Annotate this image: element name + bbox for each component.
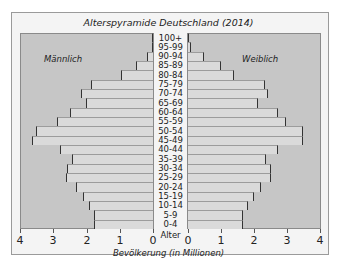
bar-female bbox=[188, 220, 243, 229]
x-tick-label: 2 bbox=[79, 234, 95, 247]
bar-female bbox=[188, 173, 271, 182]
x-tick bbox=[20, 229, 21, 233]
bar-male bbox=[81, 89, 153, 98]
x-tick-label: 3 bbox=[279, 234, 295, 247]
x-tick-label: 3 bbox=[45, 234, 61, 247]
bar-male bbox=[66, 173, 153, 182]
bar-female bbox=[188, 145, 278, 154]
bar-male bbox=[91, 80, 153, 89]
bar-female bbox=[188, 164, 271, 173]
x-tick bbox=[287, 229, 288, 233]
bar-female bbox=[188, 80, 265, 89]
bar-female bbox=[188, 52, 204, 61]
legend-male: Männlich bbox=[44, 54, 82, 64]
x-tick bbox=[320, 229, 321, 233]
bar-male bbox=[32, 136, 153, 145]
x-axis-label: Bevölkerung (in Millionen) bbox=[0, 248, 337, 258]
x-tick-label: 1 bbox=[213, 234, 229, 247]
bar-female bbox=[188, 154, 266, 163]
bar-male bbox=[136, 61, 153, 70]
chart-title: Alterspyramide Deutschland (2014) bbox=[0, 17, 337, 28]
x-tick bbox=[120, 229, 121, 233]
legend-female: Weiblich bbox=[242, 54, 278, 64]
bar-male bbox=[67, 164, 153, 173]
bar-female bbox=[188, 201, 248, 210]
bar-female bbox=[188, 210, 243, 219]
x-tick bbox=[221, 229, 222, 233]
bar-male bbox=[76, 182, 153, 191]
bar-female bbox=[188, 192, 254, 201]
bar-male bbox=[121, 70, 153, 79]
x-tick bbox=[254, 229, 255, 233]
bar-male bbox=[94, 210, 153, 219]
bar-female bbox=[188, 42, 191, 51]
bar-female bbox=[188, 126, 303, 135]
x-tick-label: 4 bbox=[12, 234, 28, 247]
bar-female bbox=[188, 33, 189, 42]
bar-male bbox=[70, 108, 153, 117]
bar-female bbox=[188, 136, 303, 145]
bar-female bbox=[188, 70, 234, 79]
bar-male bbox=[86, 98, 153, 107]
x-tick bbox=[87, 229, 88, 233]
bar-male bbox=[83, 192, 153, 201]
age-axis-label: Alter bbox=[153, 230, 188, 240]
bar-female bbox=[188, 98, 258, 107]
x-tick-label: 2 bbox=[246, 234, 262, 247]
bar-female bbox=[188, 117, 286, 126]
x-tick bbox=[188, 229, 189, 233]
bar-male bbox=[89, 201, 153, 210]
bar-female bbox=[188, 182, 261, 191]
x-tick bbox=[53, 229, 54, 233]
bar-male bbox=[60, 145, 153, 154]
bar-male bbox=[94, 220, 153, 229]
bar-female bbox=[188, 89, 268, 98]
bar-female bbox=[188, 108, 278, 117]
x-tick-label: 4 bbox=[312, 234, 328, 247]
age-group-label: 0-4 bbox=[153, 220, 188, 229]
x-tick-label: 1 bbox=[112, 234, 128, 247]
bar-male bbox=[57, 117, 153, 126]
bar-male bbox=[36, 126, 153, 135]
bar-female bbox=[188, 61, 221, 70]
bar-male bbox=[72, 154, 153, 163]
